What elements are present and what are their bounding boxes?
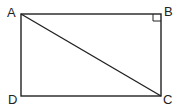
vertex-label-b: B [164,4,173,19]
vertex-label-a: A [7,5,16,20]
vertex-label-d: D [8,92,17,106]
rectangle-diagram: A B C D [0,0,178,106]
diagonal-ac [21,14,161,96]
right-angle-marker-b [153,14,161,21]
vertex-label-c: C [163,92,172,106]
